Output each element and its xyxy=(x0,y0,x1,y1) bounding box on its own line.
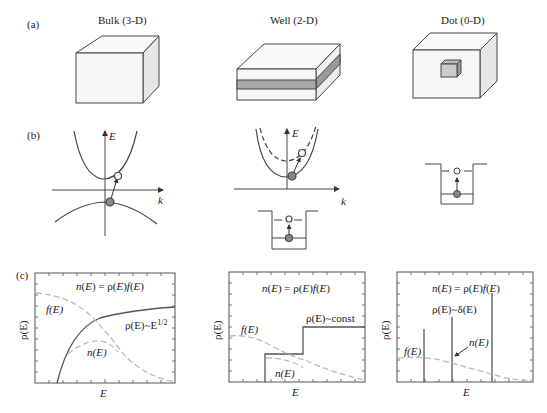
plot2-f-label: f(E) xyxy=(241,323,258,336)
dot-potential-diagram xyxy=(425,164,487,204)
plot-bulk-dos: n(E) = ρ(E)f(E) f(E) ρ(E)~E1/2 n(E) E ρ(… xyxy=(17,273,175,399)
k-axis-label-bulk: k xyxy=(158,194,164,206)
plot1-rho-label: ρ(E)~E1/2 xyxy=(125,318,167,332)
quantum-dot-cube-icon xyxy=(413,33,497,98)
plot1-x-label: E xyxy=(99,387,107,399)
well-band-diagram xyxy=(234,126,339,249)
electron-filled-icon xyxy=(106,198,114,206)
excited-subband xyxy=(260,126,316,161)
plot1-n-label: n(E) xyxy=(87,346,107,359)
plot3-f-label: f(E) xyxy=(404,345,421,358)
plot-dot-dos: n(E) = ρ(E)f(E) ρ(E)~δ(E) n(E) f(E) E ρ(… xyxy=(379,272,533,398)
n-pointer-arrow-icon xyxy=(455,347,468,356)
plot2-title: n(E) = ρ(E)f(E) xyxy=(262,282,330,295)
column-title-dot: Dot (0-D) xyxy=(441,14,485,27)
plot2-y-label: ρ(E) xyxy=(211,320,224,340)
valence-band xyxy=(55,202,157,224)
bulk-band-diagram xyxy=(52,131,163,236)
energy-axis-label-well: E xyxy=(291,127,299,139)
plot3-rho-label: ρ(E)~δ(E) xyxy=(432,303,477,316)
panel-b-label: (b) xyxy=(27,129,40,142)
plot2-x-label: E xyxy=(291,386,299,398)
column-title-bulk: Bulk (3-D) xyxy=(98,14,147,27)
plot1-f-label: f(E) xyxy=(46,303,63,316)
panel-a-label: (a) xyxy=(27,18,40,31)
figure-canvas: (a) Bulk (3-D) Well (2-D) Dot (0-D) (b) … xyxy=(0,0,547,413)
column-title-well: Well (2-D) xyxy=(270,14,318,27)
plot3-y-label: ρ(E) xyxy=(379,320,392,340)
plot-well-dos: n(E) = ρ(E)f(E) f(E) ρ(E)~const n(E) E ρ… xyxy=(211,272,365,398)
plot3-title: n(E) = ρ(E)f(E) xyxy=(432,282,500,295)
plot2-n-label: n(E) xyxy=(275,367,295,380)
plot2-rho-label: ρ(E)~const xyxy=(306,312,355,325)
k-axis-label-well: k xyxy=(341,195,347,207)
bulk-cube-icon xyxy=(76,36,159,103)
fermi-curve xyxy=(398,357,533,380)
plot3-n-label: n(E) xyxy=(469,336,489,349)
hole-empty-icon xyxy=(115,173,122,180)
panel-c-label: (c) xyxy=(16,269,29,282)
plot3-x-label: E xyxy=(462,386,470,398)
fermi-curve xyxy=(230,336,365,380)
energy-axis-label-bulk: E xyxy=(108,130,116,142)
plot1-y-label: ρ(E) xyxy=(17,320,30,340)
quantum-well-slab-icon xyxy=(237,44,340,100)
plot1-title: n(E) = ρ(E)f(E) xyxy=(76,280,144,293)
